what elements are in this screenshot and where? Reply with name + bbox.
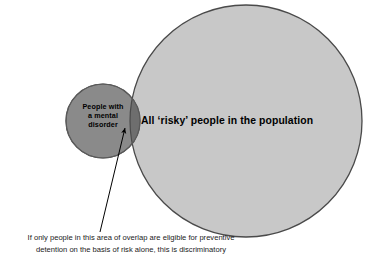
venn-diagram-graphic [0,0,376,271]
large-circle-label: All ‘risky’ people in the population [141,115,351,128]
diagram-canvas: People with a mental disorder All ‘risky… [0,0,376,271]
figure-caption: If only people in this area of overlap a… [0,232,262,256]
small-circle-label: People with a mental disorder [66,103,140,129]
